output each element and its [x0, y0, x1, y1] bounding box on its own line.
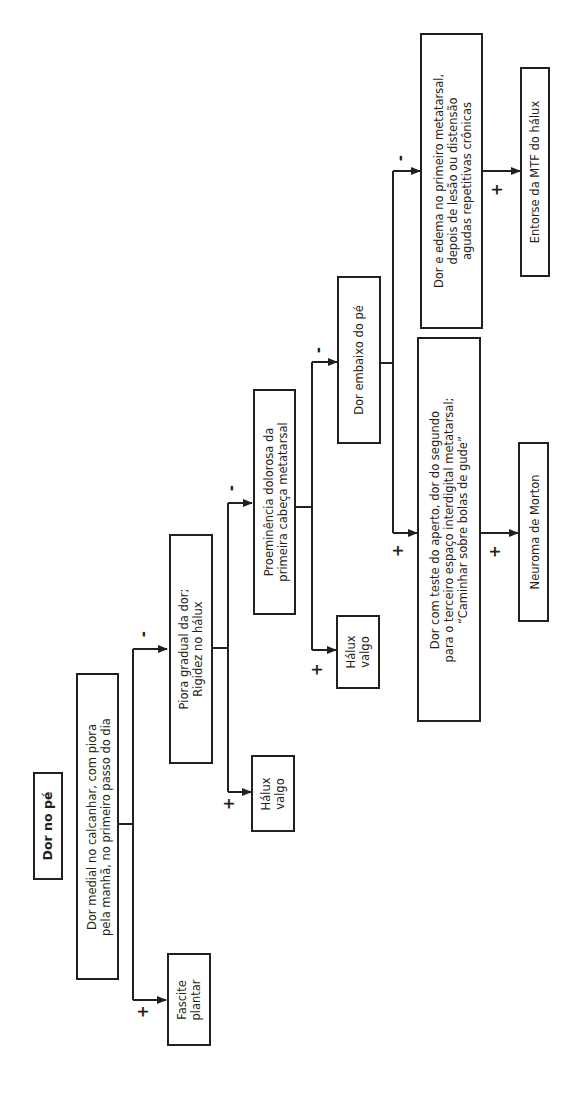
result-mtp-sprain-text: Entorse da MTF do hálux — [520, 67, 550, 277]
question-gradual-pain-text: Piora gradual da dor; Rigidez no hálux — [169, 534, 213, 764]
no-label-q3: - — [311, 344, 325, 356]
question-squeeze-test-text: Dor com teste do aperto, dor do segundo … — [417, 337, 481, 722]
yes-label-q3: + — [310, 664, 324, 676]
yes-label-q2: + — [222, 798, 236, 810]
yes-label-q6: + — [490, 184, 504, 196]
no-label-q1: - — [136, 628, 150, 640]
question-pain-under-foot: Dor embaixo do pé — [337, 276, 381, 444]
yes-label-q5: + — [488, 546, 502, 558]
question-first-metatarsal-edema: Dor e edema no primeiro metatarsal, depo… — [420, 33, 483, 329]
result-hallux-valgus-2-text: Hálux valgo — [336, 615, 380, 689]
question-squeeze-test: Dor com teste do aperto, dor do segundo … — [417, 337, 481, 722]
no-label-q4: - — [393, 152, 407, 164]
question-metatarsal-prominence: Proeminência dolorosa da primeira cabeça… — [253, 389, 296, 615]
result-morton-neuroma: Neuroma de Morton — [518, 442, 549, 622]
result-hallux-valgus-1: Hálux valgo — [251, 755, 295, 832]
result-hallux-valgus-2: Hálux valgo — [336, 615, 380, 689]
result-hallux-valgus-1-text: Hálux valgo — [251, 755, 295, 832]
no-label-q2: - — [224, 482, 238, 494]
result-mtp-sprain: Entorse da MTF do hálux — [520, 67, 550, 277]
question-metatarsal-prominence-text: Proeminência dolorosa da primeira cabeça… — [253, 389, 296, 615]
question-first-metatarsal-edema-text: Dor e edema no primeiro metatarsal, depo… — [420, 33, 483, 329]
diagram-title: Dor no pé — [33, 772, 63, 880]
result-plantar-fasciitis-text: Fascite plantar — [167, 953, 211, 1046]
question-gradual-pain: Piora gradual da dor; Rigidez no hálux — [169, 534, 213, 764]
result-plantar-fasciitis: Fascite plantar — [167, 953, 211, 1046]
yes-label-q1: + — [136, 1006, 150, 1018]
question-pain-under-foot-text: Dor embaixo do pé — [337, 276, 381, 444]
title-box: Dor no pé — [33, 772, 63, 880]
yes-label-q4: + — [391, 545, 405, 557]
question-heel-pain: Dor medial no calcanhar, com piora pela … — [76, 673, 119, 980]
result-morton-neuroma-text: Neuroma de Morton — [518, 442, 549, 622]
question-heel-pain-text: Dor medial no calcanhar, com piora pela … — [76, 673, 119, 980]
